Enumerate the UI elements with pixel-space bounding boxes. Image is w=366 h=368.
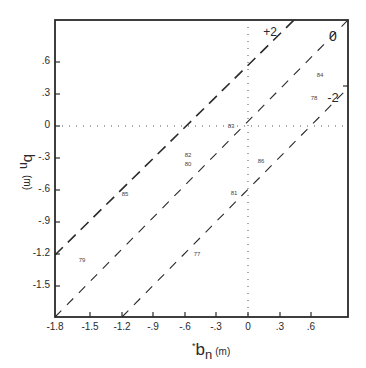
point-label-81: 81 (231, 190, 238, 196)
point-label-83: 83 (228, 123, 235, 129)
x-tick-label: -.6 (170, 321, 200, 332)
y-axis-title-unit: (m) (22, 175, 33, 190)
x-tick-label: -1.2 (107, 321, 137, 332)
x-axis-title-main: b (196, 340, 205, 359)
x-tick-label: -1.8 (40, 321, 70, 332)
x-axis-title-star: * (192, 341, 196, 351)
plus-two-dashed-line (55, 20, 294, 255)
y-tick-label: -.9 (16, 215, 50, 226)
x-tick-label: .6 (296, 321, 326, 332)
y-ticks (55, 62, 348, 286)
point-label-80: 80 (185, 161, 192, 167)
y-axis-title-sub: n (17, 162, 31, 169)
point-label-79: 79 (79, 257, 86, 263)
point-label-78: 78 (311, 95, 318, 101)
y-tick-label: 0 (16, 119, 50, 130)
line-label-plus-two: +2 (263, 25, 277, 39)
point-label-85: 85 (122, 191, 129, 197)
x-tick-label: .3 (265, 321, 295, 332)
point-label-82: 82 (185, 152, 192, 158)
line-label-zero: 0 (329, 28, 337, 44)
y-tick-label: .6 (16, 55, 50, 66)
zero-dashed-line (55, 20, 348, 317)
line-label-minus-two: -2 (327, 90, 339, 105)
x-axis-title-sub: n (205, 347, 212, 362)
y-tick-label: .3 (16, 87, 50, 98)
chart-canvas (0, 0, 366, 368)
point-label-77: 77 (194, 251, 201, 257)
x-axis-title-unit: (m) (215, 346, 230, 357)
x-axis-title: *bn(m) (192, 340, 230, 360)
minus-two-dashed-line (122, 88, 348, 317)
x-tick-label: -1.5 (75, 321, 105, 332)
point-label-84: 84 (317, 72, 324, 78)
x-tick-label: 0 (233, 321, 263, 332)
x-tick-label: -.9 (138, 321, 168, 332)
y-tick-label: -1.2 (16, 247, 50, 258)
x-tick-label: -.3 (201, 321, 231, 332)
point-label-86: 86 (258, 158, 265, 164)
y-axis-title: bn(m) (21, 154, 38, 190)
y-tick-label: -1.5 (16, 279, 50, 290)
